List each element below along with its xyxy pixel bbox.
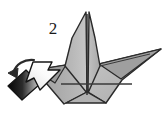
origami-step-diagram: 2 [0, 0, 166, 120]
diagram-canvas: 2 [0, 0, 166, 120]
step-number: 2 [49, 19, 58, 38]
